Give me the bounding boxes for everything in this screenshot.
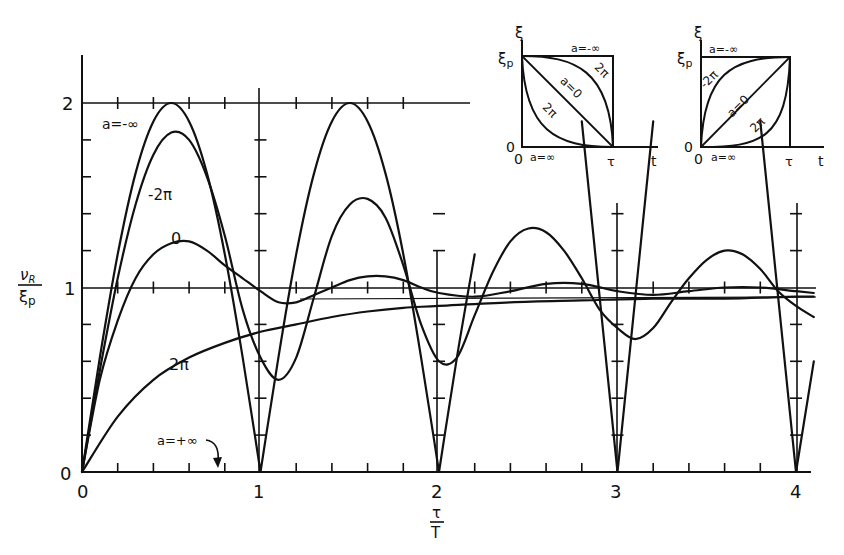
label-zero: 0 — [171, 229, 181, 248]
svg-text:2π: 2π — [540, 100, 560, 120]
svg-text:a=0: a=0 — [557, 74, 585, 102]
inset-increasing: ξ ξp 0 0 a=-∞ a=∞ a=0 -2π 2π τ t — [677, 24, 824, 169]
svg-text:ξp: ξp — [677, 50, 692, 70]
svg-text:t: t — [651, 153, 657, 169]
svg-text:a=-∞: a=-∞ — [571, 42, 600, 55]
svg-text:τ: τ — [785, 154, 793, 169]
label-a-neg-inf: a=-∞ — [102, 116, 139, 132]
svg-text:a=∞: a=∞ — [530, 151, 555, 164]
svg-text:a=-∞: a=-∞ — [709, 43, 738, 56]
svg-text:0: 0 — [684, 139, 693, 155]
label-neg-2pi: -2π — [148, 186, 172, 204]
arrowhead-icon — [213, 457, 222, 468]
y-axis-label: νR ξp — [18, 266, 42, 308]
svg-text:ξ: ξ — [515, 24, 523, 42]
svg-text:a=∞: a=∞ — [711, 151, 736, 164]
svg-text:ξ: ξ — [694, 24, 702, 42]
chart: 0 1 2 0 1 2 3 4 τ T νR ξp a=-∞ -2π 0 2π … — [0, 0, 844, 555]
y-label-denominator: ξp — [19, 287, 36, 308]
y-tick-2: 2 — [62, 93, 73, 114]
svg-text:0: 0 — [514, 151, 523, 167]
x-tick-2: 2 — [431, 481, 442, 502]
svg-text:ξp: ξp — [498, 50, 513, 70]
y-tick-1: 1 — [64, 278, 75, 299]
x-tick-4: 4 — [790, 481, 801, 502]
svg-text:2π: 2π — [747, 115, 767, 135]
label-a-pos-inf: a=+∞ — [157, 433, 198, 448]
x-label-numerator: τ — [432, 504, 441, 522]
svg-text:τ: τ — [607, 154, 615, 169]
x-axis-label: τ T — [430, 504, 444, 542]
x-tick-0: 0 — [77, 481, 88, 502]
svg-text:0: 0 — [694, 151, 703, 167]
svg-text:a=0: a=0 — [724, 92, 752, 120]
y-label-numerator: νR — [20, 266, 35, 285]
x-tick-3: 3 — [610, 481, 621, 502]
x-tick-1: 1 — [253, 481, 264, 502]
y-tick-0: 0 — [60, 463, 71, 484]
x-label-denominator: T — [430, 524, 441, 542]
inset-decreasing: ξ ξp 0 0 a=-∞ a=∞ a=0 2π 2π τ t — [498, 24, 658, 169]
svg-text:2π: 2π — [592, 60, 612, 80]
label-2pi: 2π — [169, 355, 189, 374]
svg-text:t: t — [818, 153, 824, 169]
